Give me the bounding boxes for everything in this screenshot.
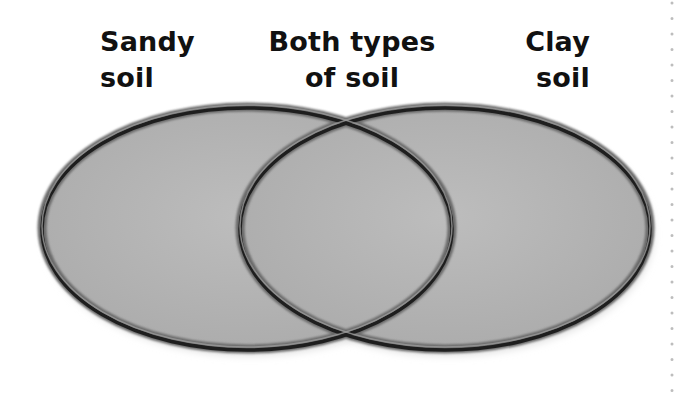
sandy-soil-label-line1: Sandy (100, 24, 195, 60)
dotted-divider (670, 0, 674, 394)
both-types-label-line1: Both types (262, 24, 442, 60)
sandy-soil-label-line2: soil (100, 60, 195, 96)
sandy-soil-label: Sandy soil (100, 24, 195, 96)
clay-soil-label: Clay soil (480, 24, 590, 96)
both-types-label-line2: of soil (262, 60, 442, 96)
clay-soil-label-line1: Clay (480, 24, 590, 60)
both-types-label: Both types of soil (262, 24, 442, 96)
clay-soil-label-line2: soil (480, 60, 590, 96)
